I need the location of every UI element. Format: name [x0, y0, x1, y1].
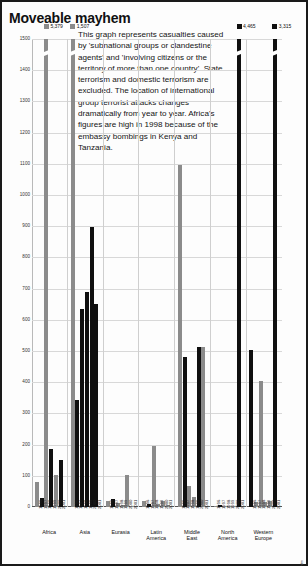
y-axis-tick-label: 1200 [20, 130, 30, 135]
gridline [32, 320, 282, 321]
y-axis-tick-label: 1300 [20, 99, 30, 104]
gridline [32, 226, 282, 227]
y-axis-tick-label: 900 [22, 224, 30, 229]
gridline [32, 39, 282, 40]
callout-swatch [70, 24, 75, 29]
year-tick-label: 2001 [62, 500, 66, 509]
year-tick-label: 2001 [169, 500, 173, 509]
group-separator [103, 39, 104, 507]
year-tick-label: 2001 [277, 500, 281, 509]
year-tick-label: 2001 [98, 500, 102, 509]
bar [80, 309, 84, 507]
callout-swatch [237, 24, 242, 29]
callout-swatch [272, 24, 277, 29]
bar [249, 350, 253, 507]
callout-value: 5,379 [50, 24, 63, 29]
gridline [32, 289, 282, 290]
bar [201, 347, 205, 507]
y-axis-tick-label: 1100 [20, 162, 30, 167]
bar [75, 400, 79, 507]
bar [152, 446, 156, 507]
callout-value: 1,507 [77, 24, 90, 29]
gridline [32, 476, 282, 477]
group-separator [246, 39, 247, 507]
gridline [32, 445, 282, 446]
y-axis-tick-label: 1400 [20, 68, 30, 73]
y-axis-tick-label: 600 [22, 318, 30, 323]
y-axis-tick-label: 100 [22, 474, 30, 479]
y-axis-tick-label: 1000 [20, 193, 30, 198]
gridline [32, 164, 282, 165]
bar [44, 39, 48, 507]
y-axis-line [32, 39, 33, 507]
year-tick-label: 2001 [134, 500, 138, 509]
year-tick-label: 2001 [205, 500, 209, 509]
source-container: Source: US Department of State, Patterns… [294, 2, 306, 562]
bar [183, 357, 187, 507]
bar [90, 227, 94, 507]
callout-value: 4,465 [243, 24, 256, 29]
bar [259, 381, 263, 507]
y-axis-tick-label: 1500 [20, 37, 30, 42]
callout-swatch [44, 24, 49, 29]
bar [85, 292, 89, 507]
chart-frame: Moveable mayhem This graph represents ca… [0, 0, 308, 566]
group-separator [67, 39, 68, 507]
bar [178, 165, 182, 507]
gridline [32, 382, 282, 383]
y-axis-tick-label: 500 [22, 349, 30, 354]
bar [94, 304, 98, 507]
gridline [32, 101, 282, 102]
plot-area: 0100200300400500600700800900100011001200… [32, 39, 282, 507]
gridline [32, 133, 282, 134]
y-axis-tick-label: 300 [22, 411, 30, 416]
y-axis-tick-label: 400 [22, 380, 30, 385]
bar [71, 39, 75, 507]
y-axis-tick-label: 0 [27, 505, 30, 510]
bar [197, 347, 201, 507]
group-separator [174, 39, 175, 507]
gridline [32, 413, 282, 414]
group-separator [210, 39, 211, 507]
group-separator [138, 39, 139, 507]
y-axis-tick-label: 700 [22, 286, 30, 291]
callout-value: 3,315 [279, 24, 292, 29]
source-note: Source: US Department of State, Patterns… [300, 560, 304, 566]
gridline [32, 351, 282, 352]
bar [49, 449, 53, 507]
bar [273, 39, 277, 507]
gridline [32, 257, 282, 258]
region-label: Western Europe [237, 529, 289, 541]
bar [237, 39, 241, 507]
gridline [32, 195, 282, 196]
gridline [32, 70, 282, 71]
y-axis-tick-label: 200 [22, 442, 30, 447]
year-tick-label: 2001 [241, 500, 245, 509]
y-axis-tick-label: 800 [22, 255, 30, 260]
